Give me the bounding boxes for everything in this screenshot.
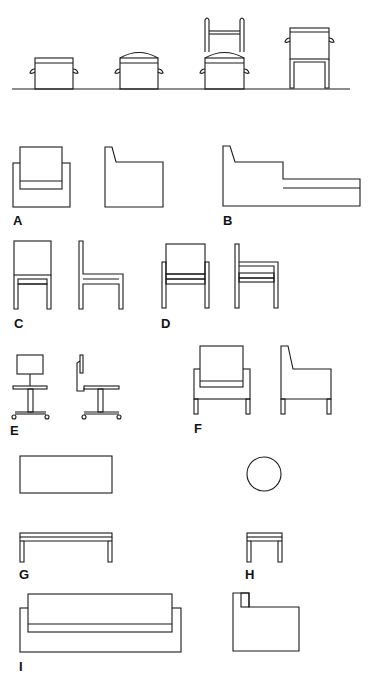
sofa-side <box>233 593 299 651</box>
task-chair-side <box>77 355 121 419</box>
armchair-open-front <box>162 244 209 308</box>
armchair-open-side <box>235 244 278 308</box>
armchair-front <box>13 147 70 207</box>
unit-table <box>285 28 334 88</box>
lounge-chair-side <box>281 346 331 414</box>
coffee-table-top <box>20 456 112 493</box>
round-table-side <box>247 533 282 562</box>
sofa-front <box>20 594 181 652</box>
chaise-side <box>223 146 360 206</box>
unit-cube <box>30 58 78 89</box>
round-table-top <box>247 457 281 491</box>
side-chair-front <box>14 241 51 309</box>
label-g: G <box>19 568 29 581</box>
coffee-table-side <box>20 533 112 562</box>
label-b: B <box>223 214 232 227</box>
label-c: C <box>14 317 23 330</box>
label-d: D <box>161 317 170 330</box>
label-e: E <box>10 424 19 437</box>
label-h: H <box>245 568 254 581</box>
furniture-diagram <box>0 0 376 675</box>
side-chair-side <box>79 241 123 309</box>
label-a: A <box>13 214 22 227</box>
unit-chair-back <box>200 18 249 89</box>
label-i: I <box>19 660 23 673</box>
armchair-side <box>105 147 163 207</box>
lounge-chair-front <box>194 346 250 414</box>
task-chair-front <box>12 355 49 419</box>
label-f: F <box>194 422 202 435</box>
unit-cushion <box>115 53 163 90</box>
